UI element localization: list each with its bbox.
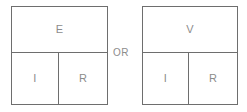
denominator-symbol-left-resistance: R	[79, 73, 87, 84]
ohms-law-figure: E I R OR V I R	[0, 0, 247, 112]
denominator-symbol-right-resistance: R	[209, 73, 217, 84]
ohms-law-chart-right: V I R	[142, 6, 238, 105]
denominator-cell-right-resistance: R	[188, 53, 237, 104]
denominator-cell-left-current: I	[12, 53, 58, 104]
denominator-row-left: I R	[12, 53, 107, 104]
or-connector-label: OR	[113, 48, 129, 58]
ohms-law-chart-left: E I R	[11, 6, 108, 105]
denominator-symbol-right-current: I	[164, 73, 167, 84]
numerator-symbol-left: E	[56, 24, 64, 35]
denominator-cell-right-current: I	[143, 53, 188, 104]
numerator-cell-left: E	[12, 7, 107, 53]
denominator-symbol-left-current: I	[33, 73, 36, 84]
numerator-symbol-right: V	[186, 24, 194, 35]
denominator-row-right: I R	[143, 53, 237, 104]
denominator-cell-left-resistance: R	[58, 53, 107, 104]
numerator-cell-right: V	[143, 7, 237, 53]
